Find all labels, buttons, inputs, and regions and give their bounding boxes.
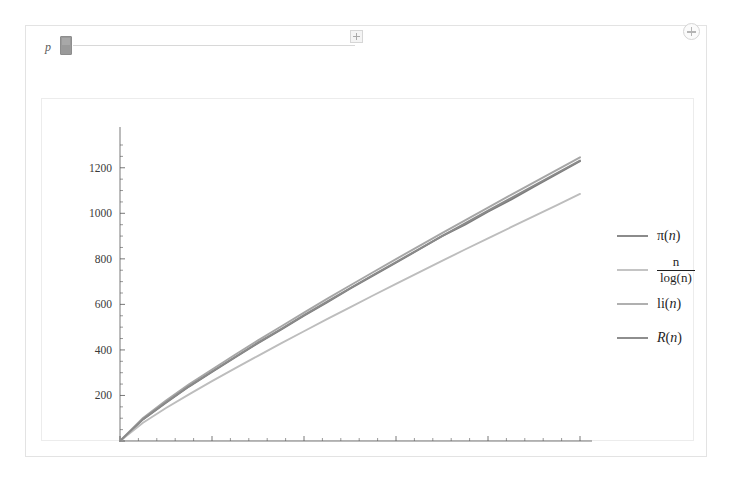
circle-plus-vertical-stroke — [691, 27, 693, 36]
legend-item-R: R(n) — [617, 321, 707, 355]
legend-swatch-li — [617, 303, 648, 305]
y-tick-label: 1200 — [89, 162, 112, 174]
legend-swatch-pi — [617, 235, 648, 237]
legend-label-pi: π(n) — [657, 229, 680, 243]
plot-svg: 200040006000800010 000200400600800100012… — [42, 99, 695, 442]
fraction-denominator: log(n) — [657, 270, 695, 286]
y-tick-label: 600 — [95, 298, 113, 310]
control-row: p — [26, 26, 708, 73]
plus-vertical-stroke — [356, 33, 357, 40]
fraction-numerator: n — [657, 255, 695, 270]
prime-counting-plot: 200040006000800010 000200400600800100012… — [42, 99, 693, 440]
slider-track[interactable] — [73, 45, 355, 46]
series-line-pi(n) — [120, 161, 580, 441]
circle-plus-icon[interactable] — [683, 23, 700, 40]
legend-label-li: li(n) — [657, 297, 681, 311]
slider-label: p — [45, 40, 51, 55]
plot-legend: π(n) n log(n) li(n) R(n) — [617, 219, 707, 355]
legend-item-n-over-logn: n log(n) — [617, 253, 707, 287]
legend-swatch-R — [617, 337, 648, 339]
y-tick-label: 1000 — [89, 207, 112, 219]
y-tick-label: 400 — [95, 344, 113, 356]
legend-item-pi: π(n) — [617, 219, 707, 253]
manipulate-panel: p 200040006000800010 0002004006008001000… — [25, 25, 707, 457]
legend-label-R: R(n) — [657, 331, 682, 345]
plus-box-icon[interactable] — [350, 30, 363, 43]
parameter-slider[interactable] — [60, 35, 355, 57]
y-tick-label: 200 — [95, 389, 113, 401]
slider-thumb[interactable] — [60, 36, 72, 55]
output-pane: 200040006000800010 000200400600800100012… — [41, 98, 694, 441]
series-line-n/log(n) — [120, 194, 580, 441]
y-tick-label: 800 — [95, 253, 113, 265]
legend-item-li: li(n) — [617, 287, 707, 321]
legend-label-n-over-logn: n log(n) — [657, 255, 695, 285]
series-line-R(n) — [120, 160, 580, 441]
legend-swatch-n-over-logn — [617, 269, 648, 271]
